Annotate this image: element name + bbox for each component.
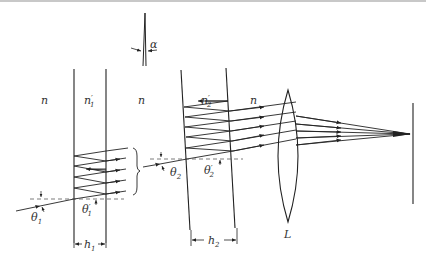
lens-icon	[278, 90, 298, 222]
brace-icon	[133, 148, 140, 195]
plate-2-rays	[143, 101, 233, 167]
theta2-label: θ2	[170, 166, 182, 181]
n1-prime-label: n′1	[84, 93, 94, 109]
theta2-prime-label: θ′2	[204, 163, 214, 179]
converging-rays	[296, 116, 410, 145]
plate-1-rays	[16, 148, 128, 211]
n-middle-label: n	[138, 94, 145, 107]
plate-2-exit-rays	[230, 102, 296, 151]
h2-label: h2	[208, 234, 220, 249]
theta1-prime-label: θ′1	[82, 202, 92, 218]
lens-label: L	[283, 228, 291, 241]
n-left-label: n	[41, 94, 48, 107]
alpha-label: α	[150, 38, 158, 51]
focal-point	[393, 131, 411, 137]
n-right-label: n	[250, 94, 257, 107]
h1-label: h1	[84, 238, 96, 253]
optics-diagram: α n n′1 n n′2 n θ	[0, 0, 426, 262]
theta1-label: θ1	[31, 211, 42, 226]
